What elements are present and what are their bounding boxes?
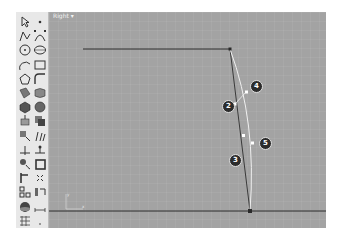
circle-icon[interactable]	[18, 43, 32, 57]
solid-box-icon[interactable]	[18, 100, 32, 114]
join-icon[interactable]	[18, 171, 32, 185]
surface-loft-icon[interactable]	[33, 86, 47, 100]
callout-3: 3	[229, 154, 242, 167]
more-icon[interactable]	[33, 214, 47, 228]
axis-y-label: y	[67, 192, 70, 197]
curve-control-points-icon[interactable]	[33, 29, 47, 43]
trim-icon[interactable]	[18, 143, 32, 157]
callout-5: 5	[259, 137, 272, 150]
ellipse-icon[interactable]	[33, 43, 47, 57]
fillet-curve-icon[interactable]	[33, 72, 47, 86]
select-pointer-icon[interactable]	[18, 15, 32, 29]
polyline-icon[interactable]	[18, 29, 32, 43]
group-icon[interactable]	[18, 185, 32, 199]
solid-sphere-icon[interactable]	[33, 100, 47, 114]
array-icon[interactable]	[33, 185, 47, 199]
geometry-canvas[interactable]: y x	[49, 12, 326, 228]
explode-icon[interactable]	[33, 171, 47, 185]
point-icon[interactable]	[33, 15, 47, 29]
dimension-icon[interactable]	[33, 200, 47, 214]
dark-curve	[230, 49, 250, 211]
surface-corner-icon[interactable]	[18, 86, 32, 100]
split-icon[interactable]	[33, 143, 47, 157]
axis-x-label: x	[82, 204, 85, 209]
callout-4: 4	[250, 80, 263, 93]
rectangle-icon[interactable]	[33, 58, 47, 72]
offset-icon[interactable]	[33, 157, 47, 171]
boolean-icon[interactable]	[33, 114, 47, 128]
tool-palette	[16, 12, 49, 228]
transform-icon[interactable]	[18, 129, 32, 143]
blend-curve-icon[interactable]	[18, 157, 32, 171]
right-viewport[interactable]: Right ▾ y x 2 4 5 3	[49, 12, 326, 228]
grid-icon[interactable]	[18, 214, 32, 228]
callout-2: 2	[222, 100, 235, 113]
polygon-icon[interactable]	[18, 72, 32, 86]
extrude-icon[interactable]	[18, 114, 32, 128]
analyze-icon[interactable]	[33, 129, 47, 143]
arc-icon[interactable]	[18, 58, 32, 72]
render-icon[interactable]	[18, 200, 32, 214]
